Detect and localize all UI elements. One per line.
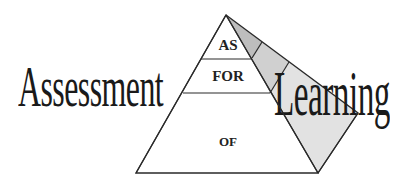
front-left-edge — [136, 15, 226, 173]
pyramid-overlay-lines — [0, 0, 415, 193]
assessment-pyramid-diagram: Assessment Learning AS FOR OF — [0, 0, 415, 193]
front-right-edge — [226, 15, 318, 173]
side-right-lower-edge — [318, 113, 358, 173]
